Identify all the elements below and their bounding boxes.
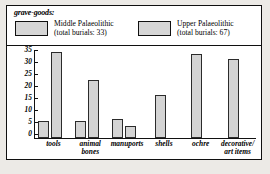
- legend-label-middle-total: (total burials: 33): [54, 28, 107, 37]
- bar-group: [35, 50, 72, 138]
- bar-upper-palaeolithic: [155, 95, 166, 138]
- chart-legend: grave-goods: Middle Palaeolithic (total …: [7, 6, 261, 46]
- x-axis-category-label: shells: [146, 140, 183, 148]
- plot-area: 05101520253035 toolsanimal bonesmanuport…: [7, 46, 261, 160]
- legend-swatch-middle-palaeolithic: [15, 21, 48, 36]
- bar-group: [182, 50, 219, 138]
- legend-item-middle-palaeolithic: Middle Palaeolithic (total burials: 33): [15, 20, 114, 37]
- bar-middle-palaeolithic: [112, 119, 123, 138]
- bar-groups: [35, 50, 256, 138]
- legend-swatch-upper-palaeolithic: [138, 21, 171, 36]
- y-axis-tick-label: 30: [25, 57, 32, 66]
- x-axis-category-label: decorative/ art items: [219, 140, 256, 157]
- bar-group: [219, 50, 256, 138]
- legend-label-upper-palaeolithic: Upper Palaeolithic (total burials: 67): [177, 20, 234, 37]
- y-axis-tick-label: 10: [25, 105, 32, 114]
- x-axis-labels: toolsanimal bonesmanuportsshellsochredec…: [35, 140, 256, 160]
- bar-group: [146, 50, 183, 138]
- y-axis-tick-label: 35: [25, 45, 32, 54]
- chart-figure: grave-goods: Middle Palaeolithic (total …: [6, 5, 262, 160]
- bar-middle-palaeolithic: [75, 121, 86, 138]
- y-axis-tick-label: 20: [25, 81, 32, 90]
- bar-middle-palaeolithic: [38, 121, 49, 138]
- y-axis-tick-label: 25: [25, 69, 32, 78]
- legend-label-upper-total: (total burials: 67): [177, 28, 230, 37]
- bar-upper-palaeolithic: [51, 52, 62, 138]
- x-axis-category-label: ochre: [182, 140, 219, 148]
- x-axis-category-label: animal bones: [72, 140, 109, 157]
- legend-title: grave-goods:: [14, 8, 54, 17]
- y-axis-tick-label: 5: [28, 117, 32, 126]
- y-axis-tick-label: 15: [25, 93, 32, 102]
- bar-upper-palaeolithic: [191, 54, 202, 138]
- y-axis-tick-label: 0: [28, 129, 32, 138]
- bar-upper-palaeolithic: [125, 126, 136, 138]
- x-axis-category-label: tools: [35, 140, 72, 148]
- legend-label-middle-palaeolithic: Middle Palaeolithic (total burials: 33): [54, 20, 114, 37]
- x-axis-category-label: manuports: [109, 140, 146, 148]
- legend-item-upper-palaeolithic: Upper Palaeolithic (total burials: 67): [138, 20, 234, 37]
- bar-group: [72, 50, 109, 138]
- bar-upper-palaeolithic: [228, 59, 239, 138]
- bar-upper-palaeolithic: [88, 80, 99, 138]
- bar-group: [109, 50, 146, 138]
